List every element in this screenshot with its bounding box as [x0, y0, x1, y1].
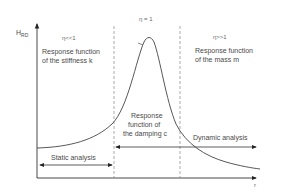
- y-axis-label: HRD: [16, 29, 28, 39]
- region-mass-title-2: of the mass m: [195, 56, 239, 64]
- region-resonance-condition: η = 1: [139, 15, 153, 23]
- y-axis-label-sub: RD: [21, 32, 28, 38]
- region-stiffness-title-1: Response function: [42, 48, 100, 56]
- peak-tick: [138, 43, 143, 45]
- x-axis-label: r: [254, 181, 256, 189]
- diagram-canvas: [0, 0, 281, 194]
- static-analysis-label: Static analysis: [51, 154, 96, 162]
- region-stiffness-title-2: of the stiffness k: [42, 57, 92, 65]
- damping-line-1: Response: [131, 112, 163, 120]
- region-mass-title-1: Response function: [195, 47, 253, 55]
- damping-line-3: the damping c: [123, 130, 167, 138]
- damping-line-2: function of: [128, 121, 160, 129]
- region-stiffness-condition: η<<1: [62, 34, 76, 42]
- dynamic-analysis-label: Dynamic analysis: [193, 134, 247, 142]
- region-mass-condition: η>>1: [213, 33, 227, 41]
